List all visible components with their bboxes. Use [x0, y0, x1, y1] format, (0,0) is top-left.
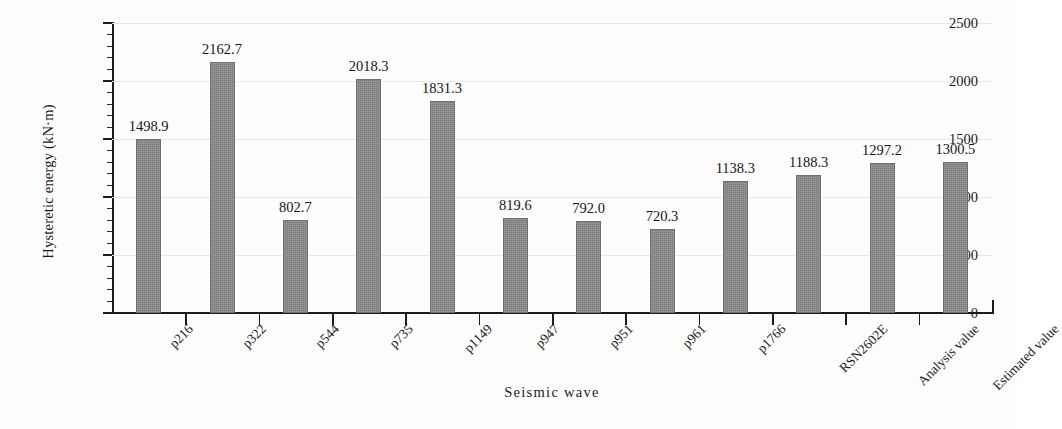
- y-tick-minor: [107, 301, 112, 302]
- bar: [870, 163, 895, 313]
- y-tick-minor: [107, 46, 112, 47]
- x-category-label: Estimated value: [991, 322, 1062, 393]
- x-tick: [919, 313, 921, 325]
- y-tick-minor: [107, 220, 112, 221]
- y-tick-minor: [107, 104, 112, 105]
- gridline: [112, 23, 992, 24]
- y-tick-minor: [107, 34, 112, 35]
- y-tick-major: [103, 254, 112, 256]
- bar: [943, 162, 968, 313]
- bar: [430, 101, 455, 313]
- bar-value-label: 2162.7: [202, 42, 242, 57]
- x-category-label: p947: [533, 322, 562, 351]
- bar-value-label: 1831.3: [422, 81, 462, 96]
- y-tick-minor: [107, 243, 112, 244]
- x-category-label: p735: [387, 322, 416, 351]
- y-tick-major: [103, 22, 112, 24]
- x-category-label: p544: [313, 322, 342, 351]
- y-tick-minor: [107, 69, 112, 70]
- y-tick-minor: [107, 185, 112, 186]
- y-tick-minor: [107, 115, 112, 116]
- bar: [650, 229, 675, 313]
- x-axis-title: Seismic wave: [112, 384, 992, 401]
- x-category-label: p961: [680, 322, 709, 351]
- bar-value-label: 1188.3: [789, 155, 828, 170]
- x-tick: [845, 313, 847, 325]
- bar-value-label: 819.6: [499, 198, 532, 213]
- x-category-label: Analysis value: [915, 322, 981, 388]
- y-tick-minor: [107, 208, 112, 209]
- y-tick-minor: [107, 127, 112, 128]
- y-tick-minor: [107, 289, 112, 290]
- bar-value-label: 1498.9: [129, 119, 169, 134]
- y-tick-minor: [107, 231, 112, 232]
- x-tick: [772, 313, 774, 325]
- bar-value-label: 720.3: [646, 209, 679, 224]
- y-tick-minor: [107, 150, 112, 151]
- bar: [283, 220, 308, 313]
- bar-value-label: 1300.5: [935, 142, 975, 157]
- bar: [210, 62, 235, 313]
- bar-value-label: 2018.3: [349, 59, 389, 74]
- y-tick-major: [103, 80, 112, 82]
- y-tick-minor: [107, 278, 112, 279]
- bar-value-label: 802.7: [279, 200, 312, 215]
- bar-value-label: 1138.3: [716, 161, 755, 176]
- y-tick-minor: [107, 266, 112, 267]
- y-tick-label: 2000: [949, 74, 978, 89]
- y-tick-major: [103, 312, 112, 314]
- gridline: [112, 139, 992, 140]
- x-category-label: RSN2602E: [837, 322, 890, 375]
- bar: [503, 218, 528, 313]
- plot-area: 05001000150020002500 1498.92162.7802.720…: [112, 23, 992, 313]
- y-tick-label: 0: [971, 306, 978, 321]
- y-tick-major: [103, 138, 112, 140]
- bar: [576, 221, 601, 313]
- gridline: [112, 81, 992, 82]
- y-axis-title: Hysteretic energy (kN·m): [40, 52, 57, 312]
- bar: [796, 175, 821, 313]
- x-category-label: p1149: [462, 322, 495, 355]
- y-tick-major: [103, 196, 112, 198]
- bar: [356, 79, 381, 313]
- x-axis-right-cap: [992, 300, 994, 314]
- bar: [723, 181, 748, 313]
- bar-value-label: 792.0: [572, 201, 605, 216]
- x-tick: [479, 313, 481, 325]
- y-tick-minor: [107, 57, 112, 58]
- x-category-label: p216: [167, 322, 196, 351]
- gridline: [112, 197, 992, 198]
- bar: [136, 139, 161, 313]
- gridline: [112, 255, 992, 256]
- y-tick-minor: [107, 162, 112, 163]
- x-category-label: p1766: [755, 322, 788, 355]
- bar-value-label: 1297.2: [862, 143, 902, 158]
- y-tick-minor: [107, 92, 112, 93]
- y-tick-label: 2500: [949, 16, 978, 31]
- x-category-label: p951: [607, 322, 636, 351]
- y-tick-minor: [107, 173, 112, 174]
- x-category-label: p322: [240, 322, 269, 351]
